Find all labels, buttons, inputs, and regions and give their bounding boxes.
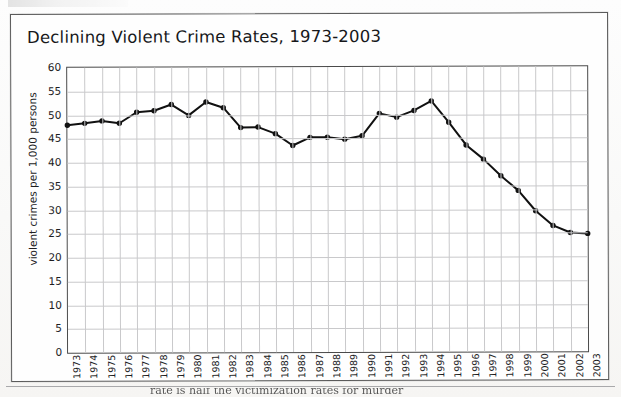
y-tick-label: 10: [49, 298, 62, 310]
x-tick-label: 1992: [400, 354, 411, 378]
plot-area: 1973: 47.91974: 48.31975: 48.81976: 48.3…: [66, 65, 589, 354]
y-tick-label: 30: [48, 203, 61, 215]
x-tick-label: 2000: [539, 353, 550, 377]
top-cut-text-sliver: [8, 0, 128, 7]
y-tick-label: 55: [48, 85, 61, 97]
x-tick-label: 1983: [244, 354, 255, 378]
x-tick-label: 1996: [470, 354, 481, 378]
y-tick-label: 20: [48, 251, 61, 263]
y-tick-label: 60: [48, 61, 61, 73]
y-axis-tick-labels: 051015202530354045505560: [11, 67, 62, 352]
y-tick-label: 40: [48, 156, 61, 168]
y-tick-label: 45: [48, 132, 61, 144]
x-tick-label: 1999: [522, 353, 533, 377]
y-tick-label: 25: [48, 227, 61, 239]
x-tick-label: 1974: [88, 355, 99, 379]
x-tick-label: 1978: [158, 355, 169, 379]
x-tick-label: 1984: [262, 354, 273, 378]
x-tick-label: 2002: [574, 353, 585, 377]
x-tick-label: 1987: [314, 354, 325, 378]
x-tick-label: 1998: [504, 353, 515, 377]
x-tick-label: 1985: [279, 354, 290, 378]
x-tick-label: 1994: [435, 354, 446, 378]
y-tick-label: 0: [55, 346, 62, 358]
x-tick-label: 2003: [591, 353, 602, 377]
x-tick-label: 1991: [383, 354, 394, 378]
x-tick-label: 1982: [227, 354, 238, 378]
x-tick-label: 1997: [487, 353, 498, 377]
x-tick-label: 1986: [296, 354, 307, 378]
x-tick-label: 1993: [418, 354, 429, 378]
page-divider-rule: [6, 386, 615, 387]
data-point: 1973: 47.9: [65, 123, 70, 128]
x-tick-label: 1973: [71, 355, 82, 379]
x-tick-label: 1979: [175, 354, 186, 378]
y-tick-label: 35: [48, 180, 61, 192]
chart-title: Declining Violent Crime Rates, 1973-2003: [27, 27, 381, 47]
x-tick-label: 1995: [452, 354, 463, 378]
x-tick-label: 1975: [106, 355, 117, 379]
bottom-cut-text: rate is half the victimization rates for…: [150, 388, 580, 397]
figure-inner: Declining Violent Crime Rates, 1973-2003…: [11, 13, 608, 381]
x-tick-label: 1989: [348, 354, 359, 378]
y-tick-label: 50: [48, 108, 61, 120]
y-tick-label: 5: [55, 322, 62, 334]
x-tick-label: 1990: [366, 354, 377, 378]
x-tick-label: 1976: [123, 355, 134, 379]
bottom-cut-text-sliver: rate is half the victimization rates for…: [150, 388, 580, 397]
y-tick-label: 15: [48, 275, 61, 287]
x-tick-label: 1977: [140, 355, 151, 379]
x-tick-label: 1988: [331, 354, 342, 378]
figure-frame: Declining Violent Crime Rates, 1973-2003…: [10, 12, 609, 382]
x-tick-label: 2001: [556, 353, 567, 377]
x-tick-label: 1980: [192, 354, 203, 378]
x-tick-label: 1981: [210, 354, 221, 378]
